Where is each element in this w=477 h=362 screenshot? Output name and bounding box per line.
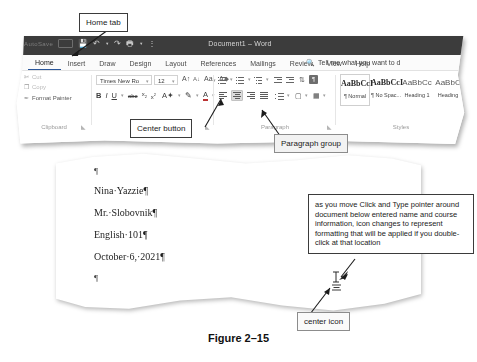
callout-click-and-type: as you move Click and Type pointer aroun… — [308, 194, 474, 254]
callout-center-icon: center icon — [297, 312, 350, 331]
callout-paragraph-group: Paragraph group — [274, 134, 348, 153]
figure-stage: AutoSave 💾 ↶ ▼ ↷ 🖶 ▼ ⋮ Document1 – Word … — [0, 0, 477, 362]
callout-center-button: Center button — [130, 119, 192, 138]
leader-lines — [0, 0, 477, 362]
figure-caption: Figure 2–15 — [0, 332, 477, 344]
callout-home-tab: Home tab — [79, 13, 128, 32]
